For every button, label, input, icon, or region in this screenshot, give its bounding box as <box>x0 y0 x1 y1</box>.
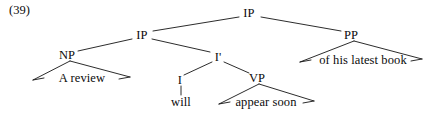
node-ip-mid: IP <box>136 29 147 41</box>
branch-i-bar-to-vp <box>224 62 249 73</box>
triangle-np-base-right <box>119 77 130 79</box>
branch-i-bar-to-i <box>184 62 212 75</box>
triangle-vp-base-right <box>303 101 314 103</box>
node-ip-top: IP <box>243 7 254 19</box>
branch-ip-mid-to-np <box>78 39 132 51</box>
terminal-a-review: A review <box>59 72 105 84</box>
node-i-bar: I' <box>215 51 222 63</box>
node-vp: VP <box>249 72 265 84</box>
syntax-tree-figure: (39) <box>0 0 425 119</box>
triangle-pp-base-right <box>411 59 422 61</box>
node-np: NP <box>59 49 75 61</box>
terminal-appear-soon: appear soon <box>235 96 296 108</box>
branch-ip-mid-to-i-bar <box>152 39 210 52</box>
node-i-head: I <box>178 74 182 86</box>
branch-lines-group <box>78 17 341 95</box>
terminal-will: will <box>171 96 191 108</box>
terminal-of-his-latest-book: of his latest book <box>319 54 407 66</box>
node-pp: PP <box>344 29 358 41</box>
branch-ip-top-to-pp <box>261 17 341 31</box>
branch-ip-top-to-ip-mid <box>153 17 239 31</box>
